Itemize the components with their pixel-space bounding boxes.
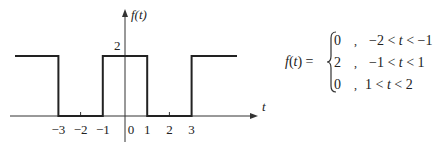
equation-lhs: f(t) =: [285, 54, 314, 70]
case-value: 2: [334, 55, 341, 70]
x-tick-label: 1: [144, 122, 151, 137]
case-row: 2,−1 < t < 1: [334, 55, 425, 70]
x-tick-label: −3: [51, 122, 65, 137]
piecewise-equation: f(t) = 0,−2 < t < −12,−1 < t < 10,1 < t …: [285, 32, 432, 92]
case-condition: −2 < t < −1: [369, 33, 432, 48]
waveform: [15, 56, 237, 116]
case-row: 0,1 < t < 2: [334, 77, 413, 92]
case-separator: ,: [354, 56, 357, 70]
pulse-train-line: [15, 56, 237, 116]
case-condition: −1 < t < 1: [369, 55, 425, 70]
t-axis-arrow-icon: [250, 113, 258, 119]
x-tick-label: 0: [128, 122, 135, 137]
x-axis-label: t: [262, 99, 266, 114]
case-value: 0: [334, 33, 341, 48]
case-separator: ,: [354, 34, 357, 48]
x-tick-label: −1: [96, 122, 110, 137]
case-separator: ,: [354, 78, 357, 92]
case-condition: 1 < t < 2: [365, 77, 413, 92]
x-tick-labels: −3−2−10123: [51, 122, 194, 137]
case-row: 0,−2 < t < −1: [334, 33, 432, 48]
x-tick-label: 3: [188, 122, 195, 137]
x-tick-label: 2: [166, 122, 173, 137]
x-tick-label: −2: [74, 122, 88, 137]
y-axis-label: f(t): [131, 7, 147, 22]
case-value: 0: [334, 77, 341, 92]
f-axis-arrow-icon: [122, 9, 128, 17]
y-tick-label-2: 2: [114, 38, 121, 53]
diagram: f(t) t 2 −3−2−10123 f(t) = 0,−2 < t < −1…: [0, 0, 445, 146]
